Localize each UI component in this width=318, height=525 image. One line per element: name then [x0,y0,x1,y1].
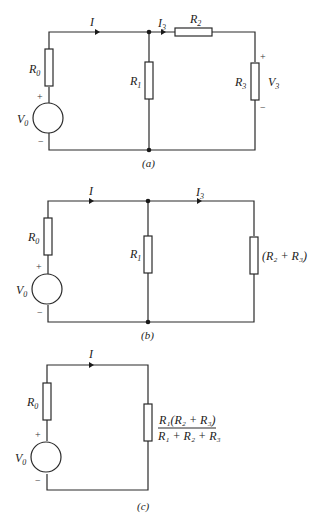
label-v3-a: V3 [268,75,279,91]
circuit-c: I R0 R₁(R₂ + R₃) R₁ + R₂ + R₃ V0 + − (c) [15,347,221,513]
label-r0-c: R0 [26,395,38,411]
wire-a-right-lower [49,100,255,150]
label-i3-a: I3 [157,16,166,32]
label-i-a: I [89,15,95,29]
resistor-r0-b [44,218,52,255]
resistor-req-c [144,404,152,441]
resistor-r1-b [144,236,152,273]
resistor-r23-b [250,237,258,274]
label-req-denominator-c: R₁ + R₂ + R₃ [157,429,221,443]
resistor-r1-a [145,62,153,99]
voltage-source-b [32,274,62,304]
resistor-r0-c [43,383,51,420]
circuit-figure: I I3 R2 R0 R1 R3 V3 V0 + − + − (a) I I3 … [0,0,318,525]
caption-b: (b) [141,329,154,342]
minus-sign-source-b: − [37,307,43,318]
label-r0-b: R0 [27,230,39,246]
arrow-current-i-c [89,362,94,368]
arrow-current-i-b [89,198,94,204]
resistor-r3-a [251,63,259,100]
junction-node-a-bottom [147,148,152,153]
minus-sign-source-c: − [35,475,41,486]
wire-c-loop [47,365,148,490]
label-v0-a: V0 [17,112,28,128]
voltage-source-a [33,103,63,133]
label-i-b: I [88,184,94,198]
circuit-a: I I3 R2 R0 R1 R3 V3 V0 + − + − (a) [17,12,279,170]
label-r2-a: R2 [189,12,201,28]
label-r23-b: (R₂ + R₃) [262,249,307,263]
label-v0-c: V0 [15,451,26,467]
wire-a-top-right [212,32,255,62]
label-i3-b: I3 [195,185,204,201]
label-i-c: I [88,347,94,361]
junction-node-b-top [146,199,151,204]
junction-node-a-top [147,30,152,35]
label-r1-a: R1 [129,74,141,90]
minus-sign-v3-a: − [260,102,266,113]
circuit-b: I I3 R0 R1 (R₂ + R₃) V0 + − (b) [16,184,307,342]
junction-node-b-bottom [146,320,151,325]
plus-sign-source-b: + [36,261,42,272]
label-r0-a: R0 [28,62,40,78]
arrow-current-i-a [95,29,100,35]
label-v0-b: V0 [16,283,27,299]
resistor-r0-a [45,49,53,86]
minus-sign-source-a: − [38,136,44,147]
label-r3-a: R3 [234,75,246,91]
plus-sign-v3-a: + [260,51,266,62]
resistor-r2-a [175,28,212,36]
caption-a: (a) [142,157,155,170]
plus-sign-source-c: + [35,429,41,440]
label-r1-b: R1 [129,247,141,263]
label-req-numerator-c: R₁(R₂ + R₃) [158,413,216,427]
voltage-source-c [31,442,61,472]
wire-a-top-left [49,32,175,50]
caption-c: (c) [137,500,150,513]
plus-sign-source-a: + [37,91,43,102]
